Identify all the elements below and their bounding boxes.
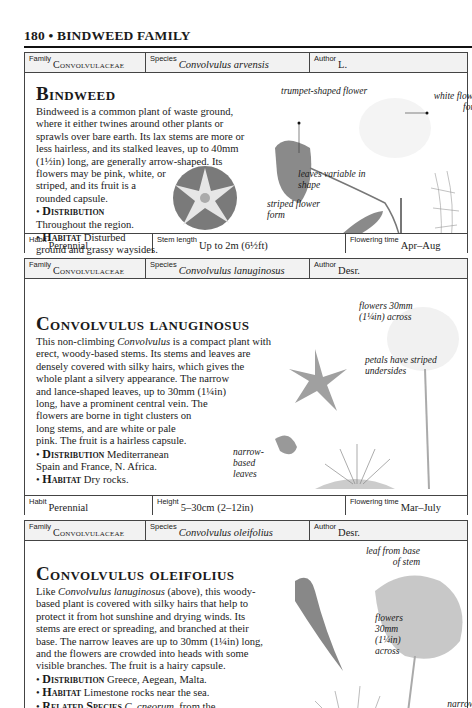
bullet-habitat: • Habitat Disturbed: [36, 231, 266, 244]
entry-title: Convolvulus lanuginosus: [36, 313, 249, 335]
page-header: 180 • BINDWEED FAMILY: [24, 24, 472, 48]
annotation-striped-form: striped flower form: [267, 199, 327, 221]
species-cell: SpeciesConvolvulus arvensis: [146, 53, 310, 72]
author-cell: AuthorL.: [310, 53, 467, 72]
family-cell: FamilyConvolvulaceae: [25, 53, 146, 72]
annotation-white-form: white flower form: [431, 91, 472, 113]
entry-body: Bindweed Bindweed is a common plant of w…: [25, 73, 467, 233]
annotation-trumpet: trumpet-shaped flower: [281, 86, 367, 97]
family-value: Convolvulaceae: [53, 59, 124, 70]
info-bar-top: FamilyConvolvulaceae SpeciesConvolvulus …: [25, 53, 467, 73]
entry-oleifolius: FamilyConvolvulaceae SpeciesConvolvulus …: [24, 520, 468, 708]
annotation-leaves: leaves variable in shape: [298, 169, 368, 191]
lanuginosus-illustration: [245, 299, 469, 495]
striped-flower-illustration: [165, 163, 245, 233]
entry-lanuginosus: FamilyConvolvulaceae SpeciesConvolvulus …: [24, 258, 468, 515]
author-value: L.: [338, 59, 347, 70]
entry-title: Convolvulus oleifolius: [36, 563, 234, 585]
entry-title: Bindweed: [36, 83, 115, 105]
oleifolius-illustration: [265, 561, 469, 708]
species-value: Convolvulus arvensis: [179, 59, 269, 70]
description: Like Convolvulus lanuginosus (above), th…: [36, 586, 301, 708]
flowering-value: Apr–Aug: [401, 240, 441, 251]
page-header-text: 180 • BINDWEED FAMILY: [24, 28, 191, 44]
entry-bindweed: FamilyConvolvulaceae SpeciesConvolvulus …: [24, 52, 468, 253]
